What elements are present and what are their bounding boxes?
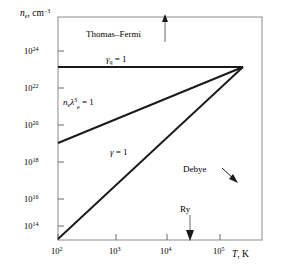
x-tick-label: 103: [109, 246, 121, 257]
y-tick-label: 1014: [24, 221, 39, 232]
x-tick-label: 105: [213, 246, 225, 257]
chart-figure: ne, cm−3 T, K 1024 1022 1020 1018 1016 1…: [0, 0, 283, 272]
curve-label-gamma: γ = 1: [110, 147, 128, 157]
annotation-debye: Debye: [183, 164, 207, 174]
x-axis-title: T, K: [232, 249, 249, 259]
annotation-thomas-fermi: Thomas–Fermi: [86, 29, 141, 39]
y-tick-label: 1018: [24, 157, 39, 168]
x-tick-label: 102: [51, 246, 63, 257]
y-tick-label: 1020: [24, 120, 39, 131]
annotation-ry: Ry: [180, 204, 191, 214]
y-tick-label: 1024: [24, 46, 39, 57]
y-tick-label: 1016: [24, 194, 39, 205]
x-tick-label: 104: [160, 246, 172, 257]
y-tick-label: 1022: [24, 83, 39, 94]
y-axis-title: ne, cm−3: [20, 8, 50, 20]
plot-frame: [58, 17, 262, 240]
curve-label-gamma-q: γq = 1: [106, 54, 127, 65]
